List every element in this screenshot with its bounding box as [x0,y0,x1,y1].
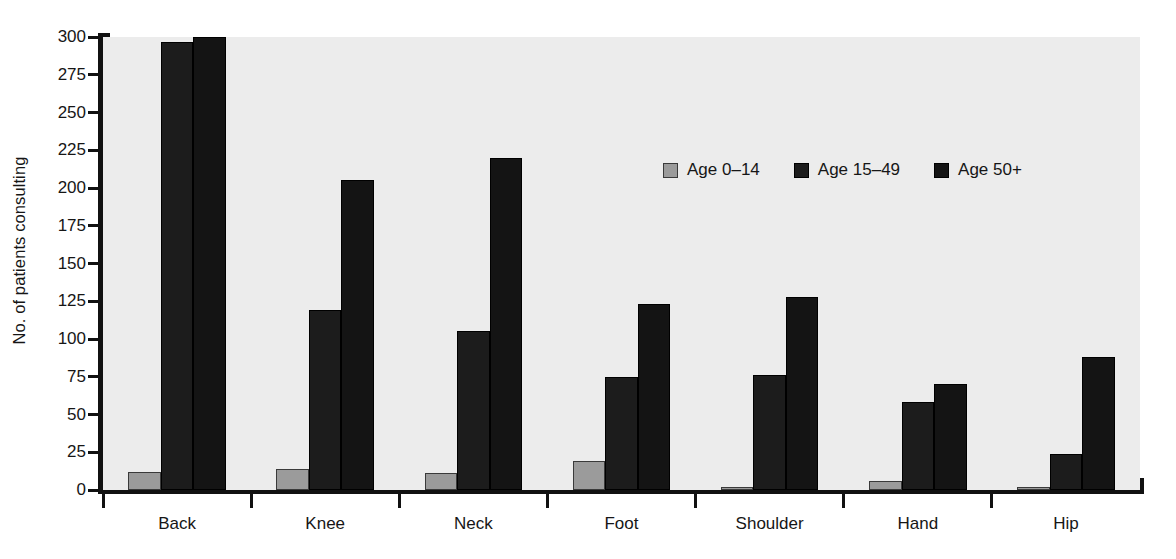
bar [786,297,819,490]
x-axis-tick [990,494,993,508]
y-axis-tick [88,300,103,303]
bar [161,42,194,490]
bar [902,402,935,490]
y-axis-tick [88,149,103,152]
x-axis-line [98,490,1144,494]
legend-label: Age 50+ [958,160,1022,180]
y-axis-tick [88,111,103,114]
bar [573,461,606,490]
legend-swatch-icon [934,163,949,178]
y-axis-tick-label: 75 [26,367,86,387]
x-axis-category-label: Shoulder [736,514,804,534]
bar [1082,357,1115,490]
legend-item: Age 0–14 [663,160,760,180]
y-axis-tick-label: 250 [26,103,86,123]
x-axis-tick [398,494,401,508]
y-axis-tick-label: 275 [26,65,86,85]
x-axis-category-label: Neck [454,514,493,534]
y-axis-tick-label: 125 [26,291,86,311]
legend-label: Age 15–49 [818,160,900,180]
legend-swatch-icon [794,163,809,178]
y-axis-tick [88,489,103,492]
legend-item: Age 50+ [934,160,1022,180]
y-axis-tick [88,338,103,341]
bar [1050,454,1083,490]
x-axis-tick [546,494,549,508]
bar [934,384,967,490]
y-axis-tick-label: 25 [26,442,86,462]
x-axis-category-label: Back [158,514,196,534]
bar [193,37,226,490]
legend: Age 0–14Age 15–49Age 50+ [663,160,1022,180]
y-axis-tick-label: 225 [26,140,86,160]
bar [605,377,638,490]
legend-swatch-icon [663,163,678,178]
x-axis-tick [694,494,697,508]
x-axis-category-label: Knee [305,514,345,534]
y-axis-tick-label: 100 [26,329,86,349]
legend-label: Age 0–14 [687,160,760,180]
bar [309,310,342,490]
x-axis-category-label: Hand [897,514,938,534]
y-axis-tick-label: 300 [26,27,86,47]
y-axis-tick-label: 200 [26,178,86,198]
x-axis-category-label: Hip [1053,514,1079,534]
bar [425,473,458,490]
y-axis-tick [88,375,103,378]
x-axis-end-cap [1140,478,1144,494]
y-axis-tick-label: 50 [26,405,86,425]
y-axis-tick-label: 0 [26,480,86,500]
bar [869,481,902,490]
legend-item: Age 15–49 [794,160,900,180]
y-axis-tick-label: 150 [26,254,86,274]
x-axis-tick [842,494,845,508]
y-axis-tick [88,224,103,227]
y-axis-tick [88,73,103,76]
x-axis-tick [102,494,105,508]
bar [276,469,309,490]
y-axis-tick-label: 175 [26,216,86,236]
y-axis-tick [88,262,103,265]
x-axis-tick [250,494,253,508]
x-axis-category-label: Foot [604,514,638,534]
bar [721,487,754,490]
y-axis-tick [88,451,103,454]
bar [128,472,161,490]
bar [1017,487,1050,490]
bar [753,375,786,490]
bar-chart: No. of patients consulting 0255075100125… [0,0,1176,559]
y-axis-tick [88,36,103,39]
y-axis-tick [88,413,103,416]
y-axis-tick [88,187,103,190]
bar [638,304,671,490]
bar [490,158,523,490]
bar [457,331,490,490]
bar [341,180,374,490]
